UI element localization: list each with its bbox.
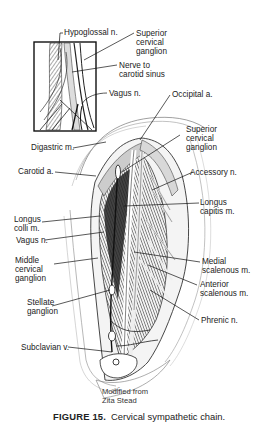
figure-caption: FIGURE 15.Cervical sympathetic chain.: [53, 411, 225, 422]
label-hypoglossal-n: Hypoglossal n.: [64, 28, 118, 37]
label-inset-superior-cervical-ganglion: Superior cervical ganglion: [136, 29, 167, 56]
label-anterior-scalenous-m: Anterior scalenous m.: [200, 280, 248, 298]
label-subclavian-v: Subclavian v.: [21, 343, 69, 352]
label-vagus-n: Vagus n.: [16, 236, 48, 245]
label-superior-cervical-ganglion: Superior cervical ganglion: [186, 125, 217, 152]
label-carotid-a: Carotid a.: [18, 167, 54, 176]
figure-caption-text: Cervical sympathetic chain.: [111, 411, 225, 422]
label-longus-capitis-m: Longus capitis m.: [200, 198, 235, 216]
label-longus-colli-m: Longus colli m.: [14, 215, 41, 233]
label-inset-vagus-n: Vagus n.: [109, 89, 141, 98]
label-medial-scalenous-m: Medial scalenous m.: [202, 257, 250, 275]
illustration-credit: Modified from Zita Stead: [102, 388, 148, 405]
label-occipital-a: Occipital a.: [172, 90, 213, 99]
label-nerve-to-carotid-sinus: Nerve to carotid sinus: [119, 61, 165, 79]
label-middle-cervical-ganglion: Middle cervical ganglion: [15, 256, 46, 283]
label-accessory-n: Accessory n.: [190, 168, 237, 177]
label-phrenic-n: Phrenic n.: [201, 316, 238, 325]
inset-panel: [34, 42, 96, 131]
figure-number: FIGURE 15.: [53, 411, 106, 422]
label-digastric-m: Digastric m.: [31, 143, 74, 152]
label-stellate-ganglion: Stellate ganglion: [27, 298, 58, 316]
dissection-field: ZRC: [64, 117, 211, 398]
